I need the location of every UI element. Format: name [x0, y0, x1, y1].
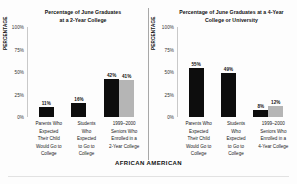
category-label-line: Would Go to: [32, 143, 65, 151]
bars-2year: 11%16%42%41%: [30, 27, 143, 117]
bar-item: 55%: [189, 27, 204, 117]
bar-value-label: 8%: [257, 104, 264, 109]
category-label-line: 2-Year College: [108, 143, 141, 151]
bar-value-label: 55%: [191, 62, 201, 67]
bar-item: 16%: [71, 27, 86, 117]
category-label-line: to Go to: [219, 143, 252, 151]
y-tick-0: 0%: [167, 115, 174, 120]
bar: [71, 103, 86, 117]
category-label: Parents WhoExpectedTheir ChildWould Go t…: [182, 120, 215, 160]
chart-figure: Percentage of June Graduates at a 2-Year…: [0, 0, 297, 184]
panel-title-line2: at a 2-Year College: [22, 16, 144, 24]
y-tick-50: 50%: [15, 70, 25, 75]
category-label-line: Expected: [70, 135, 103, 143]
bar-item: 8%: [253, 27, 268, 117]
bar-item: 49%: [221, 27, 236, 117]
bar-group: 8%12%: [253, 27, 283, 117]
bar-group: 42%41%: [104, 27, 134, 117]
bar-value-label: 41%: [122, 74, 132, 79]
category-label: 1999–2000Seniors WhoEnrolled in a2-Year …: [108, 120, 141, 160]
category-label-line: Expected: [219, 135, 252, 143]
category-label-line: Would Go to: [182, 143, 215, 151]
panel-title-line1: Percentage of June Graduates: [22, 8, 144, 16]
y-tick-50: 50%: [165, 70, 175, 75]
category-label-line: College: [219, 150, 252, 158]
category-label: 1999–2000Seniors WhoEnrolled in a4-Year …: [257, 120, 290, 160]
category-label-line: College: [70, 150, 103, 158]
panel-title-line2: College or University: [170, 16, 293, 24]
category-label: StudentsWhoExpectedto Go toCollege: [70, 120, 103, 160]
category-label-line: College: [182, 150, 215, 158]
bar-item: 42%: [104, 27, 119, 117]
y-axis-line: [27, 27, 28, 117]
y-axis-line: [177, 27, 178, 117]
category-label-line: Students: [219, 120, 252, 128]
plot-area-2year: 100% 75% 50% 25% 0% 11%16%42%41%: [30, 27, 143, 117]
bar-value-label: 11%: [42, 101, 51, 106]
y-tick-0: 0%: [17, 115, 24, 120]
y-axis-title-4year: PERCENTAGE: [151, 16, 156, 50]
bar: [221, 73, 236, 117]
panel-title-2year: Percentage of June Graduates at a 2-Year…: [22, 8, 144, 24]
bar-value-label: 16%: [74, 97, 84, 102]
group-label: AFRICAN AMERICAN: [0, 160, 297, 166]
bar: [39, 107, 54, 117]
y-axis-title-2year: PERCENTAGE: [3, 16, 8, 50]
bar-item: 41%: [119, 27, 134, 117]
category-label: StudentsWhoExpectedto Go toCollege: [219, 120, 252, 160]
bar-item: 12%: [268, 27, 283, 117]
bars-4year: 55%49%8%12%: [180, 27, 292, 117]
category-label-line: 4-Year College: [257, 143, 290, 151]
category-label-line: Expected: [182, 128, 215, 136]
y-tick-25: 25%: [165, 92, 175, 97]
y-tick-75: 75%: [15, 47, 25, 52]
panel-title-line1: Percentage of June Graduates at a 4-Year: [170, 8, 293, 16]
bottom-rule: [8, 176, 289, 177]
category-label-line: Parents Who: [182, 120, 215, 128]
bar: [189, 68, 204, 118]
bar-item: 11%: [39, 27, 54, 117]
bar: [268, 106, 283, 117]
panel-divider: [148, 8, 149, 160]
bar-value-label: 49%: [224, 67, 234, 72]
category-label-line: Parents Who: [32, 120, 65, 128]
plot-area-4year: 100% 75% 50% 25% 0% 55%49%8%12%: [180, 27, 292, 117]
bar-value-label: 12%: [271, 100, 281, 105]
chart-panels: Percentage of June Graduates at a 2-Year…: [0, 0, 297, 160]
category-label-line: Seniors Who: [257, 128, 290, 136]
bar-group: 16%: [71, 27, 86, 117]
y-tick-100: 100%: [12, 25, 24, 30]
category-label-line: to Go to: [70, 143, 103, 151]
panel-title-4year: Percentage of June Graduates at a 4-Year…: [170, 8, 293, 24]
y-tick-100: 100%: [162, 25, 174, 30]
category-label-line: Enrolled in a: [108, 135, 141, 143]
y-tick-75: 75%: [165, 47, 175, 52]
category-label-line: Their Child: [182, 135, 215, 143]
category-label-line: Enrolled in a: [257, 135, 290, 143]
category-label: Parents WhoExpectedTheir ChildWould Go t…: [32, 120, 65, 160]
chart-panel-2year: Percentage of June Graduates at a 2-Year…: [0, 0, 148, 160]
category-label-line: Seniors Who: [108, 128, 141, 136]
bar-value-label: 42%: [107, 73, 117, 78]
category-label-line: Who: [70, 128, 103, 136]
category-label-line: Who: [219, 128, 252, 136]
chart-panel-4year: Percentage of June Graduates at a 4-Year…: [148, 0, 297, 160]
category-label-line: Students: [70, 120, 103, 128]
bar-group: 11%: [39, 27, 54, 117]
category-label-line: 1999–2000: [108, 120, 141, 128]
bar: [119, 80, 134, 117]
bar-group: 49%: [221, 27, 236, 117]
category-label-line: College: [32, 150, 65, 158]
category-label-line: Their Child: [32, 135, 65, 143]
category-label-line: Expected: [32, 128, 65, 136]
y-tick-25: 25%: [15, 92, 25, 97]
bar: [104, 79, 119, 117]
category-labels-2year: Parents WhoExpectedTheir ChildWould Go t…: [30, 120, 143, 160]
bar-group: 55%: [189, 27, 204, 117]
category-labels-4year: Parents WhoExpectedTheir ChildWould Go t…: [180, 120, 292, 160]
bar: [253, 110, 268, 117]
category-label-line: 1999–2000: [257, 120, 290, 128]
